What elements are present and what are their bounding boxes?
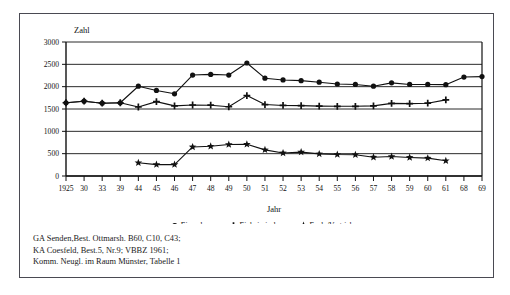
marker-einheimische bbox=[243, 92, 250, 99]
marker-einwohner bbox=[407, 82, 412, 87]
legend-marker-evak-vertriebene bbox=[300, 222, 308, 224]
xtick-label-58: 58 bbox=[388, 184, 396, 193]
marker-einheimische bbox=[99, 100, 106, 107]
legend-label-einwohner: Einwohner bbox=[181, 221, 215, 224]
xtick-label-39: 39 bbox=[116, 184, 124, 193]
source-note-line-2: KA Coesfeld, Best.5, Nr.9; VBBZ 1961; bbox=[33, 245, 473, 257]
marker-einwohner bbox=[154, 88, 159, 93]
marker-einwohner bbox=[262, 76, 267, 81]
legend-label-einheimische: Einheimische bbox=[240, 221, 282, 224]
marker-einheimische bbox=[316, 103, 323, 110]
ytick-label-1500: 1500 bbox=[44, 105, 59, 114]
source-note: GA Senden,Best. Ottmarsh. B60, C10, C43;… bbox=[33, 233, 473, 268]
marker-evak-vertriebene bbox=[406, 153, 414, 160]
series-line-einwohner bbox=[66, 63, 482, 103]
y-axis-title: Zahl bbox=[74, 25, 90, 35]
marker-evak-vertriebene bbox=[225, 141, 233, 148]
marker-einheimische bbox=[153, 98, 160, 105]
series-line-einheimische bbox=[66, 96, 446, 107]
xtick-label-59: 59 bbox=[406, 184, 414, 193]
xtick-label-50: 50 bbox=[243, 184, 251, 193]
marker-einwohner bbox=[172, 91, 177, 96]
series-line-evak-vertriebene bbox=[138, 144, 445, 164]
xtick-label-54: 54 bbox=[315, 184, 323, 193]
marker-einwohner bbox=[208, 72, 213, 77]
xtick-label-57: 57 bbox=[370, 184, 378, 193]
marker-einheimische bbox=[370, 102, 377, 109]
marker-evak-vertriebene bbox=[279, 149, 287, 156]
marker-einwohner bbox=[479, 74, 484, 79]
marker-einwohner bbox=[335, 81, 340, 86]
population-line-chart: 0500100015002000250030001925303339444546… bbox=[20, 14, 495, 224]
marker-einheimische bbox=[406, 100, 413, 107]
marker-einwohner bbox=[443, 82, 448, 87]
ytick-label-1000: 1000 bbox=[44, 127, 59, 136]
marker-evak-vertriebene bbox=[370, 153, 378, 160]
ytick-label-2000: 2000 bbox=[44, 82, 59, 91]
chart-plot-area: 0500100015002000250030001925303339444546… bbox=[20, 14, 495, 224]
legend-marker-einheimische bbox=[230, 222, 237, 224]
xtick-label-33: 33 bbox=[98, 184, 106, 193]
marker-einheimische bbox=[442, 96, 449, 103]
marker-einheimische bbox=[298, 102, 305, 109]
xtick-label-1925: 1925 bbox=[58, 184, 73, 193]
xtick-label-60: 60 bbox=[424, 184, 432, 193]
marker-einwohner bbox=[190, 72, 195, 77]
marker-einwohner bbox=[280, 77, 285, 82]
marker-einheimische bbox=[388, 100, 395, 107]
marker-einwohner bbox=[461, 74, 466, 79]
xtick-label-55: 55 bbox=[334, 184, 342, 193]
ytick-label-500: 500 bbox=[48, 149, 60, 158]
ytick-label-3000: 3000 bbox=[44, 38, 59, 47]
xtick-label-45: 45 bbox=[153, 184, 161, 193]
marker-einwohner bbox=[353, 82, 358, 87]
xtick-label-61: 61 bbox=[442, 184, 450, 193]
xtick-label-48: 48 bbox=[207, 184, 215, 193]
ytick-label-2500: 2500 bbox=[44, 60, 59, 69]
marker-einheimische bbox=[424, 100, 431, 107]
marker-evak-vertriebene bbox=[243, 140, 251, 147]
xtick-label-51: 51 bbox=[261, 184, 269, 193]
xtick-label-69: 69 bbox=[478, 184, 486, 193]
x-axis-title: Jahr bbox=[267, 204, 281, 214]
xtick-label-44: 44 bbox=[135, 184, 143, 193]
marker-evak-vertriebene bbox=[315, 150, 323, 157]
marker-einheimische bbox=[262, 101, 269, 108]
marker-einwohner bbox=[371, 84, 376, 89]
marker-einwohner bbox=[389, 80, 394, 85]
marker-einwohner bbox=[136, 84, 141, 89]
marker-einwohner bbox=[299, 78, 304, 83]
marker-evak-vertriebene bbox=[135, 159, 143, 166]
marker-evak-vertriebene bbox=[297, 148, 305, 155]
marker-einheimische bbox=[63, 99, 70, 106]
marker-evak-vertriebene bbox=[261, 146, 269, 153]
ytick-label-0: 0 bbox=[55, 172, 59, 181]
marker-einheimische bbox=[189, 102, 196, 109]
xtick-label-56: 56 bbox=[352, 184, 360, 193]
xtick-label-53: 53 bbox=[297, 184, 305, 193]
xtick-label-52: 52 bbox=[279, 184, 287, 193]
source-note-line-1: GA Senden,Best. Ottmarsh. B60, C10, C43; bbox=[33, 233, 473, 245]
marker-einheimische bbox=[81, 98, 88, 105]
source-note-line-3: Komm. Neugl. im Raum Münster, Tabelle 1 bbox=[33, 256, 473, 268]
marker-einheimische bbox=[171, 102, 178, 109]
marker-einwohner bbox=[244, 60, 249, 65]
xtick-label-68: 68 bbox=[460, 184, 468, 193]
legend-label-evak-vertriebene: Evak./Vertriebene bbox=[310, 221, 365, 224]
marker-evak-vertriebene bbox=[153, 161, 161, 168]
marker-einwohner bbox=[226, 72, 231, 77]
marker-evak-vertriebene bbox=[442, 157, 450, 164]
legend-marker-einwohner bbox=[172, 223, 177, 224]
marker-einheimische bbox=[207, 102, 214, 109]
marker-einwohner bbox=[425, 82, 430, 87]
marker-evak-vertriebene bbox=[334, 151, 342, 158]
xtick-label-46: 46 bbox=[171, 184, 179, 193]
marker-evak-vertriebene bbox=[207, 142, 215, 149]
xtick-label-30: 30 bbox=[80, 184, 88, 193]
marker-einheimische bbox=[280, 102, 287, 109]
marker-einwohner bbox=[317, 80, 322, 85]
marker-evak-vertriebene bbox=[352, 151, 360, 158]
marker-evak-vertriebene bbox=[424, 154, 432, 161]
figure-panel: 0500100015002000250030001925303339444546… bbox=[19, 13, 494, 278]
xtick-label-47: 47 bbox=[189, 184, 197, 193]
